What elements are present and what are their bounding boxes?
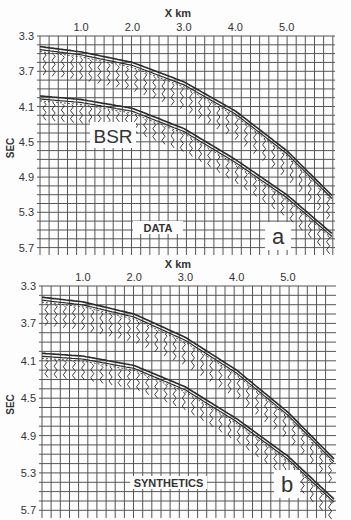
y-tick-label: 3.7 [21, 317, 36, 329]
x-tick-label: 3.0 [178, 271, 193, 283]
x-tick-label: 5.0 [279, 21, 294, 33]
y-tick-label: 5.3 [19, 206, 34, 218]
y-tick-label: 4.1 [19, 101, 34, 113]
x-axis-label: X km [165, 258, 192, 270]
y-tick-label: 4.9 [19, 171, 34, 183]
y-tick-label: 4.5 [19, 136, 34, 148]
y-tick-label: 3.7 [19, 65, 34, 77]
bsr-label: BSR [93, 126, 132, 147]
panel-annotation: DATA [144, 222, 173, 234]
panel-annotation: SYNTHETICS [134, 477, 204, 489]
panel-letter: a [272, 224, 285, 249]
y-tick-label: 3.3 [19, 30, 34, 42]
y-tick-label: 5.7 [19, 242, 34, 254]
y-axis-label: SEC [5, 394, 16, 415]
seismic-figure: 3.33.74.14.54.95.35.71.02.03.04.05.0X km… [0, 0, 351, 520]
y-tick-label: 3.3 [21, 280, 36, 292]
panel-a: 3.33.74.14.54.95.35.71.02.03.04.05.0X km… [5, 7, 335, 255]
x-tick-label: 4.0 [228, 21, 243, 33]
x-tick-label: 2.0 [125, 21, 140, 33]
x-tick-label: 1.0 [73, 21, 88, 33]
x-tick-label: 1.0 [75, 271, 90, 283]
y-tick-label: 5.7 [21, 504, 36, 516]
x-axis-label: X km [165, 7, 192, 19]
panel-letter: b [281, 472, 293, 497]
y-tick-label: 4.5 [21, 392, 36, 404]
x-tick-label: 5.0 [280, 271, 295, 283]
y-tick-label: 5.3 [21, 467, 36, 479]
y-tick-label: 4.9 [21, 430, 36, 442]
panel-b: 3.33.74.14.54.95.35.71.02.03.04.05.0X km… [5, 258, 336, 519]
y-axis-label: SEC [5, 138, 16, 159]
x-tick-label: 3.0 [176, 21, 191, 33]
x-tick-label: 2.0 [127, 271, 142, 283]
y-tick-label: 4.1 [21, 355, 36, 367]
x-tick-label: 4.0 [229, 271, 244, 283]
